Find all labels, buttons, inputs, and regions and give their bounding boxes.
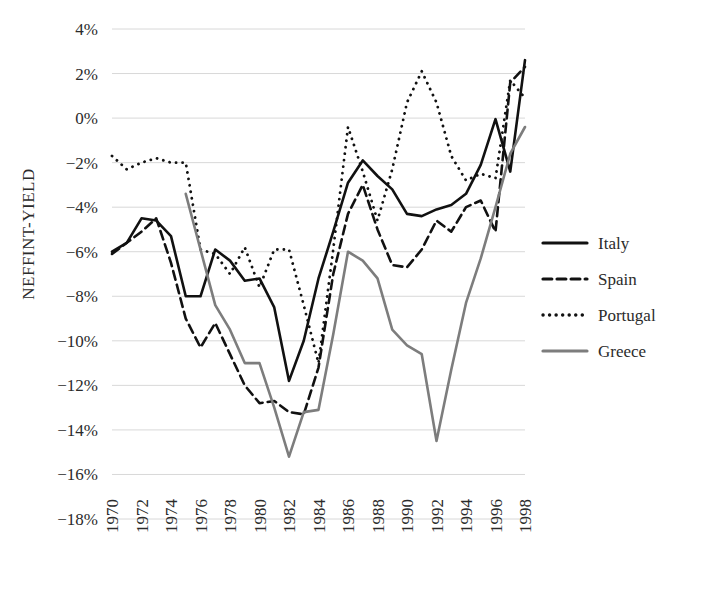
- legend-label: Italy: [598, 234, 630, 253]
- x-tick-label: 1988: [369, 499, 388, 533]
- y-tick-label: −16%: [57, 465, 98, 484]
- x-tick-label: 1976: [192, 499, 211, 533]
- series-line-italy: [112, 60, 525, 381]
- x-tick-label: 1998: [516, 499, 535, 533]
- x-tick-label: 1990: [398, 499, 417, 533]
- y-axis-label: NEFFINT-YIELD: [19, 168, 38, 299]
- x-tick-label: 1978: [221, 499, 240, 533]
- x-tick-label: 1980: [251, 499, 270, 533]
- x-tick-label: 1974: [162, 499, 181, 534]
- y-tick-label: −2%: [66, 154, 98, 173]
- y-tick-label: −4%: [66, 198, 98, 217]
- x-tick-label: 1996: [487, 499, 506, 533]
- legend-label: Greece: [598, 342, 646, 361]
- y-tick-label: 4%: [75, 20, 98, 39]
- x-tick-label: 1982: [280, 499, 299, 533]
- x-tick-label: 1984: [310, 499, 329, 534]
- legend-item-italy[interactable]: Italy: [543, 234, 630, 253]
- y-tick-label: −10%: [57, 332, 98, 351]
- legend-item-greece[interactable]: Greece: [543, 342, 646, 361]
- y-tick-label: −12%: [57, 376, 98, 395]
- line-chart: 4%2%0%−2%−4%−6%−8%−10%−12%−14%−16%−18% 1…: [0, 0, 703, 591]
- y-tick-label: −18%: [57, 510, 98, 529]
- x-tick-label: 1992: [428, 499, 447, 533]
- legend-item-spain[interactable]: Spain: [543, 270, 637, 289]
- y-tick-label: −8%: [66, 287, 98, 306]
- chart-figure: 4%2%0%−2%−4%−6%−8%−10%−12%−14%−16%−18% 1…: [0, 0, 703, 591]
- chart-legend: ItalySpainPortugalGreece: [543, 234, 656, 361]
- x-tick-label: 1972: [133, 499, 152, 533]
- legend-label: Portugal: [598, 306, 656, 325]
- y-axis-ticks: 4%2%0%−2%−4%−6%−8%−10%−12%−14%−16%−18%: [57, 20, 98, 529]
- y-tick-label: −6%: [66, 243, 98, 262]
- x-tick-label: 1970: [103, 499, 122, 533]
- y-tick-label: 0%: [75, 109, 98, 128]
- x-axis-ticks: 1970197219741976197819801982198419861988…: [103, 499, 535, 534]
- x-tick-label: 1994: [457, 499, 476, 534]
- legend-label: Spain: [598, 270, 637, 289]
- y-tick-label: 2%: [75, 65, 98, 84]
- y-axis-title: NEFFINT-YIELD: [19, 168, 38, 299]
- series-lines: [112, 60, 525, 456]
- y-tick-label: −14%: [57, 421, 98, 440]
- x-tick-label: 1986: [339, 499, 358, 533]
- legend-item-portugal[interactable]: Portugal: [543, 306, 656, 325]
